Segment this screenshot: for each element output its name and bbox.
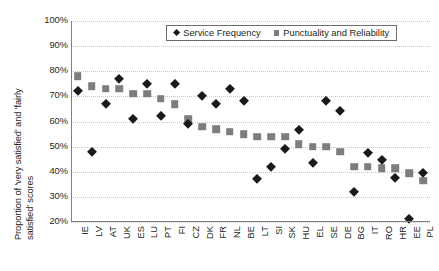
plot-frame xyxy=(71,21,430,222)
y-axis-tick-label: 40% xyxy=(32,167,68,176)
x-axis-tick-label: UK xyxy=(123,226,132,239)
x-axis-tick-label: LT xyxy=(261,226,270,236)
plot-area xyxy=(71,21,430,222)
x-axis-tick-label: EL xyxy=(316,226,325,237)
legend-label-punctuality-and-reliability: Punctuality and Reliability xyxy=(283,28,389,38)
y-axis-tick-label: 100% xyxy=(32,16,68,25)
x-axis-tick-label: SI xyxy=(275,226,284,235)
x-axis-tick-label: PT xyxy=(164,226,173,238)
chart-legend: Service Frequency Punctuality and Reliab… xyxy=(166,25,397,41)
x-axis-tick-label: LU xyxy=(150,226,159,238)
y-axis-tick-label: 30% xyxy=(32,192,68,201)
x-axis-tick-label: FI xyxy=(178,226,187,234)
x-axis-tick-label: SE xyxy=(330,226,339,238)
gridline xyxy=(71,222,430,223)
x-axis-tick-label: SK xyxy=(288,226,297,238)
diamond-marker-icon xyxy=(173,29,180,36)
x-axis-tick-label: IE xyxy=(81,226,90,235)
legend-entry-punctuality-and-reliability: Punctuality and Reliability xyxy=(274,28,390,38)
square-marker-icon xyxy=(274,30,280,36)
chart-container: Proportion of 'very satisfied' and 'fair… xyxy=(0,0,439,271)
legend-label-service-frequency: Service Frequency xyxy=(183,28,261,38)
legend-entry-service-frequency: Service Frequency xyxy=(174,28,261,38)
x-axis-tick-label: LV xyxy=(95,226,104,237)
x-axis-tick-label: DE xyxy=(344,226,353,239)
x-axis-tick-label: DK xyxy=(206,226,215,239)
y-axis-tick-labels: 100%90%80%70%60%50%40%30%20% xyxy=(30,21,68,222)
x-axis-tick-labels: IELVATUKESLUPTFICZDKFRNLBELTSISKHUELSEDE… xyxy=(71,226,430,271)
y-axis-tick-label: 80% xyxy=(32,67,68,76)
x-axis-tick-label: NL xyxy=(233,226,242,238)
x-axis-tick-label: FR xyxy=(219,226,228,238)
x-axis-tick-label: CZ xyxy=(192,226,201,238)
x-axis-tick-label: ES xyxy=(137,226,146,238)
x-axis-tick-label: RO xyxy=(385,226,394,240)
x-axis-tick-label: IT xyxy=(371,226,380,234)
y-axis-tick-label: 50% xyxy=(32,142,68,151)
x-axis-tick-label: AT xyxy=(109,226,118,237)
x-axis-tick-label: PL xyxy=(426,226,435,237)
x-axis-tick-label: HU xyxy=(302,226,311,239)
x-axis-tick-label: EE xyxy=(413,226,422,238)
y-axis-title-line-1: Proportion of 'very satisfied' and 'fair… xyxy=(13,89,23,241)
x-axis-tick-label: BG xyxy=(357,226,366,239)
x-axis-tick-label: HR xyxy=(399,226,408,239)
y-axis-tick-label: 70% xyxy=(32,92,68,101)
y-axis-tick-label: 20% xyxy=(32,217,68,226)
y-axis-tick-label: 90% xyxy=(32,41,68,50)
x-axis-tick-label: BE xyxy=(247,226,256,238)
y-axis-tick-label: 60% xyxy=(32,117,68,126)
